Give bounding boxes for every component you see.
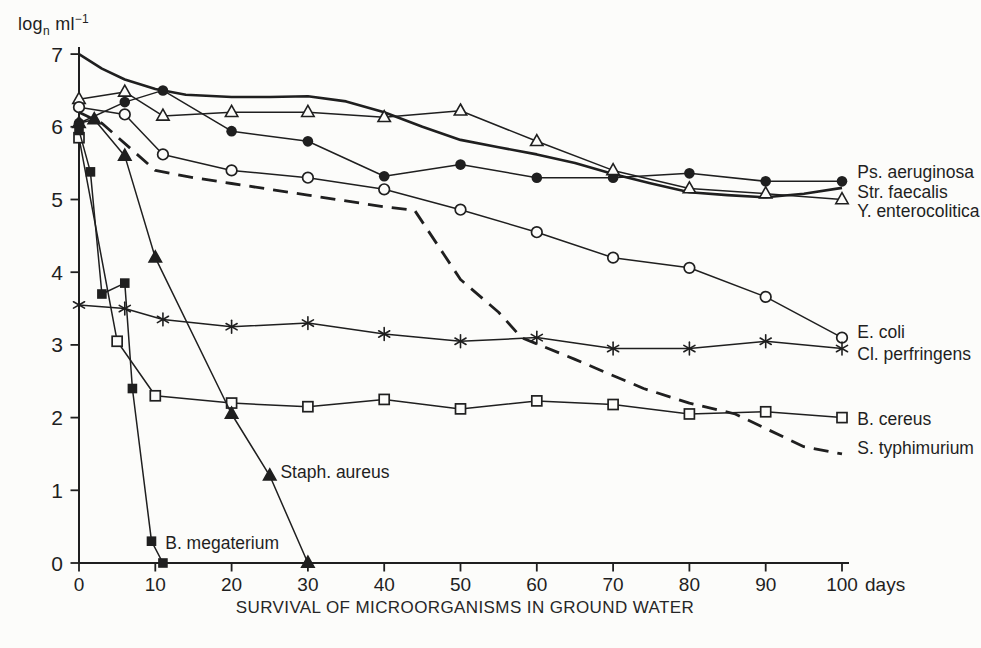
series-label-e-coli: E. coli [857, 322, 905, 342]
marker-circle-open [684, 263, 695, 274]
y-tick-label-2: 2 [51, 406, 63, 429]
y-tick-label-4: 4 [51, 261, 63, 284]
marker-circle-open [379, 184, 390, 195]
series-label-s-typhimurium: S. typhimurium [857, 438, 974, 458]
y-axis-unit-subscript: n [43, 24, 50, 38]
marker-circle-filled [760, 176, 771, 187]
x-tick-label-30: 30 [297, 574, 318, 595]
marker-triangle-open [760, 187, 772, 198]
marker-circle-open [119, 109, 130, 120]
marker-circle-filled [303, 136, 314, 147]
x-tick-label-80: 80 [679, 574, 700, 595]
marker-square-open [532, 396, 542, 406]
series-markers-e-coli [74, 102, 848, 343]
marker-triangle-open [302, 105, 314, 116]
x-tick-label-0: 0 [74, 574, 85, 595]
y-axis-unit-superscript: −1 [75, 12, 89, 26]
x-tick-label-40: 40 [374, 574, 395, 595]
marker-circle-open [532, 227, 543, 238]
series-label-staph-aureus: Staph. aureus [280, 462, 389, 482]
marker-circle-open [158, 149, 169, 160]
marker-square-filled [147, 536, 157, 546]
x-tick-label-60: 60 [526, 574, 547, 595]
marker-triangle-filled [149, 251, 161, 262]
marker-circle-filled [455, 159, 466, 170]
chart-caption: SURVIVAL OF MICROORGANISMS IN GROUND WAT… [80, 598, 850, 618]
marker-circle-filled [837, 176, 848, 187]
marker-triangle-filled [302, 556, 314, 567]
marker-square-open [303, 402, 313, 412]
series-label-b-cereus: B. cereus [857, 409, 931, 429]
y-tick-label-6: 6 [51, 115, 63, 138]
marker-circle-filled [532, 172, 543, 183]
series-line-e-coli [79, 107, 842, 337]
x-tick-label-70: 70 [603, 574, 624, 595]
marker-circle-filled [684, 168, 695, 179]
marker-triangle-open [157, 109, 169, 120]
marker-circle-filled [226, 126, 237, 137]
marker-square-filled [120, 278, 130, 288]
axes [79, 47, 849, 563]
marker-triangle-filled [264, 469, 276, 480]
series-markers-y-enterocolitica [73, 85, 848, 204]
marker-square-open [608, 400, 618, 410]
marker-circle-open [608, 252, 619, 263]
marker-square-filled [97, 289, 107, 299]
y-tick-label-0: 0 [51, 552, 63, 575]
x-axis-unit-label: days [865, 574, 905, 595]
marker-square-filled [86, 167, 96, 177]
series-markers-ps-aeruginosa [74, 85, 848, 186]
series-line-str-faecalis [79, 54, 842, 197]
series-markers-staph-aureus [73, 113, 314, 567]
marker-circle-open [760, 292, 771, 303]
marker-triangle-open [836, 193, 848, 204]
marker-square-filled [158, 558, 168, 568]
marker-circle-open [455, 204, 466, 215]
y-axis-unit-prefix: log [18, 14, 43, 34]
x-tick-label-50: 50 [450, 574, 471, 595]
y-axis-unit-label: logn ml−1 [18, 12, 89, 38]
marker-square-open [456, 404, 466, 414]
series-label-str-faecalis: Str. faecalis [857, 182, 948, 202]
marker-square-open [112, 336, 122, 346]
series-label-ps-aeruginosa: Ps. aeruginosa [857, 162, 974, 182]
x-tick-label-20: 20 [221, 574, 242, 595]
marker-square-open [379, 394, 389, 404]
marker-square-filled [128, 384, 138, 394]
x-tick-label-90: 90 [755, 574, 776, 595]
survival-chart-figure: 012345670102030405060708090100daysStr. f… [0, 0, 981, 648]
series-label-y-enterocolitica: Y. enterocolitica [857, 201, 980, 221]
y-tick-label-3: 3 [51, 333, 63, 356]
y-tick-label-7: 7 [51, 43, 63, 66]
marker-square-filled [74, 126, 84, 136]
marker-circle-open [226, 165, 237, 176]
marker-triangle-open [119, 85, 131, 96]
marker-square-open [761, 407, 771, 417]
survival-line-chart: 012345670102030405060708090100daysStr. f… [0, 0, 981, 648]
y-axis-unit-mid: ml [50, 14, 75, 34]
marker-circle-filled [158, 85, 169, 96]
marker-circle-filled [119, 97, 130, 108]
y-tick-label-1: 1 [51, 479, 63, 502]
x-tick-label-10: 10 [145, 574, 166, 595]
marker-square-open [150, 391, 160, 401]
marker-circle-open [74, 102, 85, 113]
marker-triangle-open [454, 104, 466, 115]
marker-circle-filled [379, 171, 390, 182]
y-tick-label-5: 5 [51, 188, 63, 211]
marker-triangle-open [225, 105, 237, 116]
x-tick-label-100: 100 [826, 574, 858, 595]
series-label-b-megaterium: B. megaterium [165, 533, 279, 553]
marker-square-open [684, 409, 694, 419]
marker-circle-open [303, 172, 314, 183]
marker-square-open [837, 413, 847, 423]
series-label-cl-perfringens: Cl. perfringens [857, 344, 971, 364]
